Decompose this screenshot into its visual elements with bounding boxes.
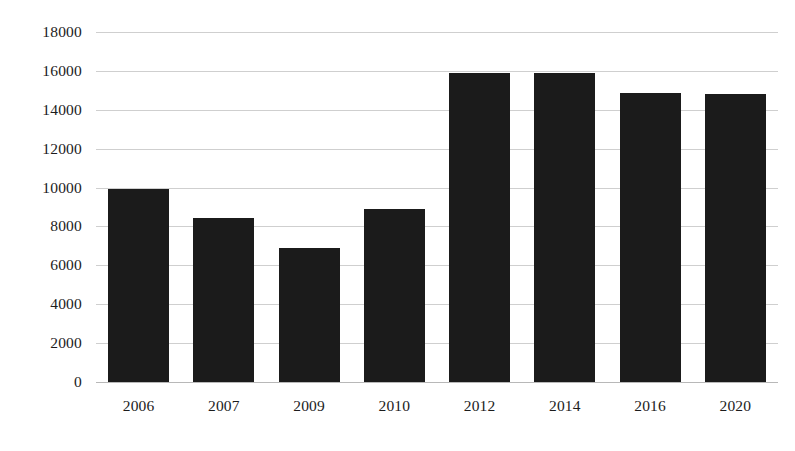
bar-2009 <box>279 248 340 382</box>
x-axis-tick-labels: 20062007200920102012201420162020 <box>96 398 778 428</box>
plot-area <box>96 32 778 382</box>
x-axis-label-2012: 2012 <box>437 398 523 414</box>
bar-2007 <box>193 218 254 382</box>
y-axis-label: 2000 <box>0 335 82 351</box>
x-axis-label-2016: 2016 <box>607 398 693 414</box>
y-axis-label: 18000 <box>0 24 82 40</box>
y-axis-label: 6000 <box>0 257 82 273</box>
bar-2010 <box>364 209 425 382</box>
bar-2020 <box>705 94 766 382</box>
bar-2012 <box>449 73 510 382</box>
y-axis-label: 10000 <box>0 180 82 196</box>
gridline-0 <box>96 382 778 383</box>
x-axis-label-2014: 2014 <box>522 398 608 414</box>
y-axis-label: 0 <box>0 374 82 390</box>
bar-chart: 1800016000140001200010000800060004000200… <box>0 0 795 451</box>
y-axis-label: 4000 <box>0 296 82 312</box>
x-axis-label-2020: 2020 <box>692 398 778 414</box>
x-axis-label-2010: 2010 <box>351 398 437 414</box>
gridline-16000 <box>96 71 778 72</box>
bar-2006 <box>108 189 169 382</box>
gridline-18000 <box>96 32 778 33</box>
x-axis-label-2007: 2007 <box>181 398 267 414</box>
x-axis-label-2006: 2006 <box>96 398 182 414</box>
x-axis-label-2009: 2009 <box>266 398 352 414</box>
y-axis-label: 16000 <box>0 63 82 79</box>
y-axis-label: 14000 <box>0 102 82 118</box>
bar-2014 <box>534 73 595 382</box>
y-axis-tick-labels: 1800016000140001200010000800060004000200… <box>0 32 82 382</box>
y-axis-label: 8000 <box>0 218 82 234</box>
bar-2016 <box>620 93 681 382</box>
y-axis-label: 12000 <box>0 141 82 157</box>
